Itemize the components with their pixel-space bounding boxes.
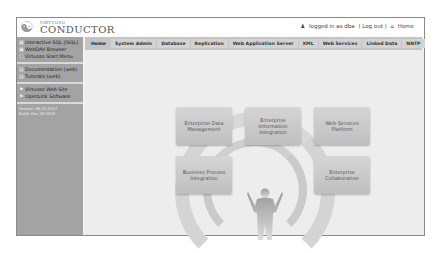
sidebar-item-tutorials[interactable]: ▤Tutorials (web) [19, 73, 81, 80]
sidebar-item-label: Virtuoso Web Site [25, 86, 68, 93]
tab-database[interactable]: Database [157, 39, 189, 48]
version-info: Version: 06.01.3127 Build: Dec 29 2010 [17, 104, 83, 118]
sql-icon: ▦ [19, 39, 24, 46]
sidebar-group-docs: ▤Documentation (web) ▤Tutorials (web) [17, 64, 83, 84]
sidebar-item-webdav[interactable]: ▣WebDAV Browser [19, 46, 81, 53]
tab-linked-data[interactable]: Linked Data [362, 39, 401, 48]
globe-icon: ⚑ [19, 93, 24, 100]
sidebar-item-label: Tutorials (web) [25, 73, 60, 80]
sidebar-item-label: Documentation (web) [25, 66, 77, 73]
build-text: Build: Dec 29 2010 [19, 111, 81, 116]
sidebar-item-label: Virtuoso Start Menu [25, 53, 73, 60]
sidebar-item-documentation[interactable]: ▤Documentation (web) [19, 66, 81, 73]
book-icon: ▤ [19, 66, 24, 73]
box-web-services-platform[interactable]: Web Services Platform [314, 107, 370, 145]
home-link[interactable]: Home [398, 23, 414, 29]
sidebar-item-openlink[interactable]: ⚑OpenLink Software [19, 93, 81, 100]
tab-web-services[interactable]: Web Services [319, 39, 362, 48]
tab-nntp[interactable]: NNTP [402, 39, 424, 48]
header: ☯ VIRTUOSO CONDUCTOR ♟ logged in as dba … [17, 18, 424, 37]
sidebar-item-start-menu[interactable]: ▢Virtuoso Start Menu [19, 53, 81, 60]
user-bar: ♟ logged in as dba ( Log out ) ⌂ Home [300, 23, 416, 29]
tutorial-icon: ▤ [19, 73, 24, 80]
menu-icon: ▢ [19, 53, 24, 60]
conductor-person-icon [245, 186, 285, 242]
tab-xml[interactable]: XML [299, 39, 318, 48]
tab-system-admin[interactable]: System Admin [111, 39, 156, 48]
tab-replication[interactable]: Replication [191, 39, 228, 48]
virtuoso-conductor-logo[interactable]: ☯ VIRTUOSO CONDUCTOR [20, 19, 110, 37]
logout-link[interactable]: ( Log out ) [358, 23, 386, 29]
box-enterprise-data-management[interactable]: Enterprise Data Management [176, 107, 232, 145]
sidebar-group-links: ⚑Virtuoso Web Site ⚑OpenLink Software [17, 84, 83, 104]
box-enterprise-information-integration[interactable]: Enterprise Information Integration [245, 107, 301, 145]
main-tabs: Home System Admin Database Replication W… [85, 37, 422, 50]
tab-home[interactable]: Home [87, 39, 110, 48]
box-business-process-integration[interactable]: Business Process Integration [176, 156, 232, 194]
sidebar-item-label: Interactive SQL (ISQL) [25, 39, 78, 46]
sidebar-item-isql[interactable]: ▦Interactive SQL (ISQL) [19, 39, 81, 46]
sidebar-item-label: WebDAV Browser [25, 46, 66, 53]
user-icon: ♟ [300, 23, 305, 29]
logo-big-text: CONDUCTOR [40, 24, 115, 35]
tab-web-application-server[interactable]: Web Application Server [229, 39, 298, 48]
sidebar: ▦Interactive SQL (ISQL) ▣WebDAV Browser … [17, 37, 83, 235]
sidebar-item-virtuoso-site[interactable]: ⚑Virtuoso Web Site [19, 86, 81, 93]
globe-icon: ⚑ [19, 86, 24, 93]
home-icon: ⌂ [391, 23, 395, 29]
conductor-figure-icon: ☯ [20, 19, 33, 36]
box-enterprise-collaboration[interactable]: Enterprise Collaboration [314, 156, 370, 194]
sidebar-group-tools: ▦Interactive SQL (ISQL) ▣WebDAV Browser … [17, 37, 83, 64]
folder-icon: ▣ [19, 46, 24, 53]
logged-in-text: logged in as dba [309, 23, 355, 29]
sidebar-item-label: OpenLink Software [25, 93, 70, 100]
conductor-window: ☯ VIRTUOSO CONDUCTOR ♟ logged in as dba … [16, 17, 425, 236]
home-diagram: Enterprise Data Management Enterprise In… [85, 50, 424, 235]
